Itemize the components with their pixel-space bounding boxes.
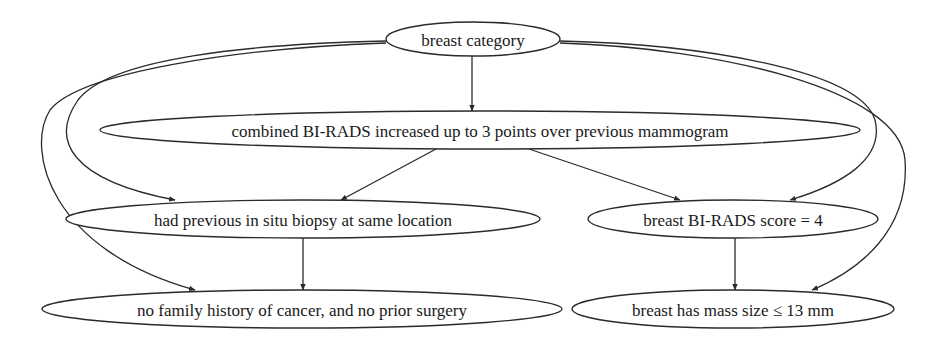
edge-combined-birads-to-in-situ-biopsy	[341, 149, 436, 200]
edge-category-to-family-history	[42, 43, 386, 290]
node-label: combined BI-RADS increased up to 3 point…	[231, 122, 728, 141]
decision-graph: breast category combined BI-RADS increas…	[0, 0, 942, 347]
node-previous-in-situ-biopsy: had previous in situ biopsy at same loca…	[66, 200, 540, 238]
node-birads-score-4: breast BI-RADS score = 4	[588, 200, 878, 238]
node-label: breast BI-RADS score = 4	[643, 211, 823, 230]
node-label: breast category	[421, 31, 525, 50]
node-mass-size: breast has mass size ≤ 13 mm	[572, 290, 894, 328]
node-label: breast has mass size ≤ 13 mm	[632, 301, 834, 320]
node-no-family-history: no family history of cancer, and no prio…	[42, 290, 562, 328]
node-label: no family history of cancer, and no prio…	[137, 301, 467, 320]
edge-combined-birads-to-birads-score	[529, 149, 680, 200]
edge-category-to-mass-size	[560, 43, 905, 290]
node-breast-category: breast category	[386, 22, 560, 56]
node-label: had previous in situ biopsy at same loca…	[154, 211, 452, 230]
edges-layer	[42, 41, 906, 290]
node-combined-birads-increase: combined BI-RADS increased up to 3 point…	[100, 111, 860, 149]
